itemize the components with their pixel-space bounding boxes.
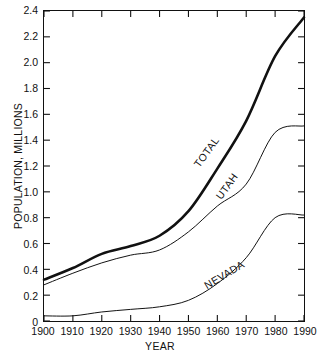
x-tick-label: 1980 <box>264 326 287 337</box>
x-tick-label: 1960 <box>206 326 229 337</box>
x-tick-label: 1970 <box>235 326 258 337</box>
y-tick-label: 0.6 <box>23 239 38 250</box>
y-tick-label: 2.2 <box>23 31 38 42</box>
x-tick-label: 1920 <box>90 326 113 337</box>
x-tick-label: 1940 <box>148 326 171 337</box>
x-axis-title: YEAR <box>0 340 320 352</box>
x-tick-label: 1950 <box>177 326 200 337</box>
series-curve-utah <box>44 126 304 285</box>
y-tick-label: 0.4 <box>23 265 38 276</box>
y-tick-label: 1.4 <box>23 135 38 146</box>
y-tick-label: 1.2 <box>23 161 38 172</box>
y-tick-label: 1.0 <box>23 187 38 198</box>
y-tick-label: 2.4 <box>23 5 38 16</box>
x-tick-label: 1900 <box>31 326 54 337</box>
y-axis-title: POPULATION, MILLIONS <box>12 86 24 246</box>
x-tick-label: 1930 <box>119 326 142 337</box>
population-line-chart: 00.20.40.60.81.01.21.41.61.82.02.22.4 PO… <box>0 0 320 354</box>
y-tick-label: 2.0 <box>23 57 38 68</box>
y-tick-label: 0.2 <box>23 291 38 302</box>
y-tick-label: 1.6 <box>23 109 38 120</box>
series-curve-nevada <box>44 214 304 316</box>
x-tick-label: 1910 <box>60 326 83 337</box>
series-curves <box>44 11 304 321</box>
y-tick-label: 1.8 <box>23 83 38 94</box>
x-tick-label: 1990 <box>293 326 316 337</box>
y-tick-label: 0.8 <box>23 213 38 224</box>
plot-area <box>43 10 305 322</box>
